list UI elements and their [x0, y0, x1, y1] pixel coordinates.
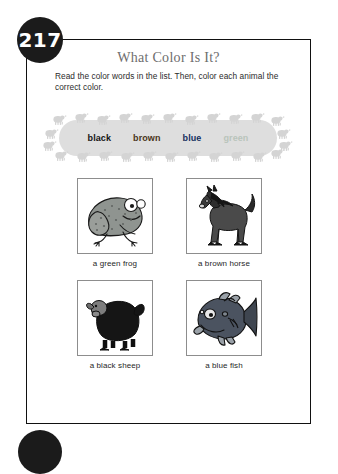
picture-cell-frog: a green frog — [77, 178, 153, 268]
picture-grid: a green frog — [27, 178, 312, 370]
picture-box-sheep[interactable] — [77, 280, 153, 356]
worksheet-page: What Color Is It? Read the color words i… — [26, 39, 311, 424]
color-word-list: black brown blue green — [43, 113, 293, 163]
picture-cell-sheep: a black sheep — [77, 280, 153, 370]
picture-cell-fish: a blue fish — [186, 280, 262, 370]
color-word-green: green — [223, 133, 248, 143]
picture-caption-sheep: a black sheep — [90, 361, 141, 370]
color-words-row: black brown blue green — [43, 128, 293, 148]
picture-caption-fish: a blue fish — [205, 361, 243, 370]
page-number-badge: 217 — [17, 17, 63, 63]
frog-illustration — [79, 180, 151, 252]
picture-box-fish[interactable] — [186, 280, 262, 356]
fish-illustration — [188, 282, 260, 354]
next-page-badge — [18, 430, 62, 474]
sheep-illustration — [79, 282, 151, 354]
picture-box-frog[interactable] — [77, 178, 153, 254]
picture-caption-horse: a brown horse — [198, 259, 250, 268]
picture-box-horse[interactable] — [186, 178, 262, 254]
page-number-label: 217 — [18, 28, 61, 52]
horse-illustration — [188, 180, 260, 252]
color-word-blue: blue — [183, 133, 202, 143]
page-title: What Color Is It? — [27, 50, 310, 66]
instructions-text: Read the color words in the list. Then, … — [55, 71, 280, 93]
color-word-brown: brown — [133, 133, 161, 143]
picture-caption-frog: a green frog — [93, 259, 137, 268]
color-word-black: black — [88, 133, 112, 143]
picture-cell-horse: a brown horse — [186, 178, 262, 268]
